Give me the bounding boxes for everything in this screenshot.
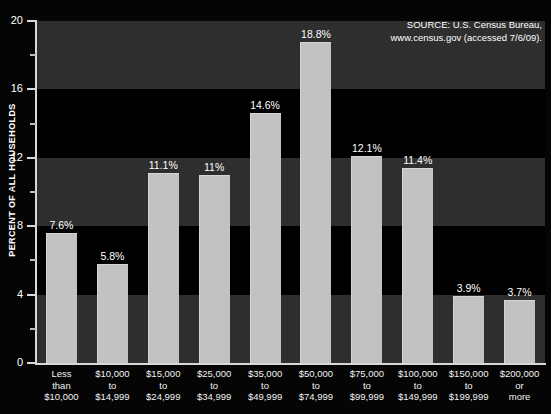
bar[interactable] bbox=[504, 300, 535, 363]
bar-value-label: 7.6% bbox=[30, 220, 92, 231]
source-note: SOURCE: U.S. Census Bureau, www.census.g… bbox=[390, 18, 542, 44]
x-axis-line bbox=[35, 363, 546, 365]
bar-value-label: 12.1% bbox=[336, 143, 398, 154]
bar-value-label: 14.6% bbox=[234, 100, 296, 111]
bar-value-label: 3.7% bbox=[489, 287, 551, 298]
y-tick-label: 8 bbox=[1, 220, 23, 231]
bar[interactable] bbox=[148, 173, 179, 363]
y-tick-major bbox=[27, 20, 36, 22]
bar-value-label: 18.8% bbox=[285, 29, 347, 40]
y-tick-label: 12 bbox=[1, 152, 23, 163]
y-tick-minor bbox=[30, 191, 36, 193]
bar-value-label: 5.8% bbox=[81, 251, 143, 262]
y-tick-major bbox=[27, 88, 36, 90]
x-category-label: $200,000 or more bbox=[490, 368, 550, 403]
y-tick-minor bbox=[30, 259, 36, 261]
bar[interactable] bbox=[402, 168, 433, 363]
bar[interactable] bbox=[300, 42, 331, 363]
bar[interactable] bbox=[46, 233, 77, 363]
y-tick-label: 4 bbox=[1, 289, 23, 300]
y-tick-label: 0 bbox=[1, 357, 23, 368]
y-tick-label: 16 bbox=[1, 83, 23, 94]
bar-chart: PERCENT OF ALL HOUSEHOLDS 048121620 7.6%… bbox=[0, 0, 551, 414]
y-axis-title: PERCENT OF ALL HOUSEHOLDS bbox=[7, 85, 17, 275]
bar[interactable] bbox=[97, 264, 128, 363]
bar-value-label: 11.4% bbox=[387, 155, 449, 166]
bar[interactable] bbox=[453, 296, 484, 363]
y-tick-minor bbox=[30, 328, 36, 330]
bar[interactable] bbox=[250, 113, 281, 363]
y-tick-minor bbox=[30, 123, 36, 125]
bar[interactable] bbox=[199, 175, 230, 363]
y-tick-label: 20 bbox=[1, 15, 23, 26]
bar[interactable] bbox=[351, 156, 382, 363]
bar-value-label: 11% bbox=[183, 162, 245, 173]
y-tick-minor bbox=[30, 54, 36, 56]
y-tick-major bbox=[27, 294, 36, 296]
y-tick-major bbox=[27, 157, 36, 159]
y-tick-major bbox=[27, 362, 36, 364]
background-band bbox=[36, 158, 545, 226]
